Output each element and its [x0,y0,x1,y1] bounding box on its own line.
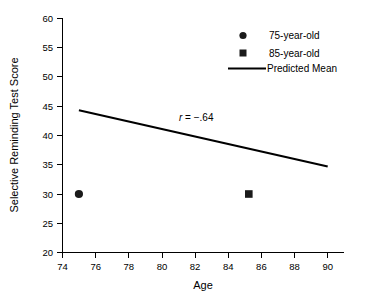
chart-figure: 60 55 50 45 40 35 30 25 20 74 76 [0,0,374,305]
x-axis-title: Age [193,279,213,291]
y-axis-ticks: 60 55 50 45 40 35 30 25 20 [42,13,62,258]
x-tick-label: 88 [289,261,300,272]
y-tick-label: 35 [42,159,53,170]
x-tick-label: 74 [57,261,68,272]
y-tick-label: 50 [42,71,53,82]
y-axis-title: Selective Reminding Test Score [8,57,20,212]
chart-legend: 75-year-old 85-year-old Predicted Mean [228,30,337,74]
x-tick-label: 76 [90,261,101,272]
legend-label-75-year-old: 75-year-old [269,30,320,41]
y-tick-label: 45 [42,101,53,112]
y-tick-label: 30 [42,189,53,200]
legend-label-85-year-old: 85-year-old [269,48,320,59]
x-tick-label: 86 [256,261,267,272]
x-tick-label: 84 [223,261,234,272]
y-tick-label: 55 [42,42,53,53]
y-tick-label: 40 [42,130,53,141]
legend-marker-circle-icon [239,32,246,39]
correlation-value: = −.64 [182,112,214,123]
scatter-plot: 60 55 50 45 40 35 30 25 20 74 76 [0,0,374,305]
x-tick-label: 90 [322,261,333,272]
x-tick-label: 82 [190,261,201,272]
y-tick-label: 20 [42,247,53,258]
y-tick-label: 60 [42,13,53,24]
legend-marker-square-icon [240,50,247,57]
data-point-75-year-old [75,190,83,198]
legend-label-predicted-mean: Predicted Mean [267,63,337,74]
correlation-annotation: r = −.64 [179,112,214,123]
x-axis-ticks: 74 76 78 80 82 84 86 88 90 [57,253,333,273]
x-tick-label: 78 [124,261,135,272]
y-tick-label: 25 [42,218,53,229]
data-point-85-year-old [245,190,253,198]
x-tick-label: 80 [157,261,168,272]
